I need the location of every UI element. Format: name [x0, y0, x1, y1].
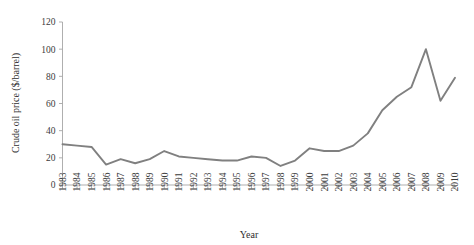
- x-tick-label: 1983: [58, 172, 68, 191]
- y-tick-label: 80: [46, 72, 56, 82]
- y-axis-title: Crude oil price ($/barrel): [10, 53, 22, 153]
- x-tick-label: 2003: [349, 172, 359, 191]
- x-tick-label: 1995: [232, 172, 242, 191]
- x-tick-label: 1991: [174, 172, 184, 191]
- x-tick-label: 1997: [261, 172, 271, 191]
- x-tick-label: 2005: [378, 172, 388, 191]
- x-tick-label: 2007: [407, 172, 417, 191]
- x-tick-label: 1998: [276, 172, 286, 191]
- data-series-group: [63, 49, 456, 166]
- x-tick-label: 1986: [102, 172, 112, 191]
- x-tick-label: 2002: [334, 172, 344, 191]
- x-tick-label: 2004: [363, 172, 373, 191]
- y-tick-label: 100: [41, 45, 56, 55]
- x-tick-label: 1984: [72, 172, 82, 191]
- x-tick-label: 1994: [218, 172, 228, 191]
- y-tick-label: 0: [51, 180, 56, 190]
- y-tick-label: 40: [46, 126, 56, 136]
- x-tick-label: 2006: [392, 172, 402, 191]
- chart-canvas: 020406080100120 198319841985198619871988…: [0, 0, 474, 245]
- data-line-crude-oil-price: [63, 49, 456, 166]
- x-tick-label: 2000: [305, 172, 315, 191]
- x-tick-label: 1999: [290, 172, 300, 191]
- x-tick-label: 1987: [116, 172, 126, 191]
- y-tick-label: 120: [41, 17, 56, 27]
- x-tick-label: 2010: [450, 172, 460, 191]
- x-tick-label: 2008: [421, 172, 431, 191]
- y-tick-label: 60: [46, 99, 56, 109]
- x-tick-label: 1989: [145, 172, 155, 191]
- x-tick-label: 1993: [203, 172, 213, 191]
- x-tick-label: 2001: [320, 172, 330, 191]
- x-tick-label: 1985: [87, 172, 97, 191]
- x-axis-title: Year: [240, 229, 259, 240]
- x-tick-label: 1992: [189, 172, 199, 191]
- crude-oil-price-chart: 020406080100120 198319841985198619871988…: [0, 0, 474, 245]
- y-axis: 020406080100120: [41, 17, 62, 190]
- x-tick-label: 1990: [160, 172, 170, 191]
- x-tick-label: 2009: [436, 172, 446, 191]
- x-axis: 1983198419851986198719881989199019911992…: [58, 172, 461, 191]
- y-tick-label: 20: [46, 153, 56, 163]
- x-tick-label: 1988: [131, 172, 141, 191]
- x-tick-label: 1996: [247, 172, 257, 191]
